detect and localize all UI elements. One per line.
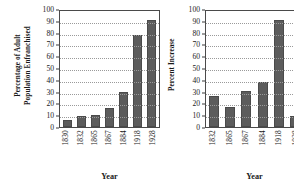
x-tick-label: 1865	[91, 130, 99, 146]
chart-enfranchisement: Percentage of Adult Population Enfranchi…	[0, 0, 150, 195]
plot-area-right	[205, 10, 294, 128]
y-tick-label: 30	[192, 89, 200, 97]
gridline	[60, 117, 159, 118]
x-tick-label: 1832	[209, 130, 217, 146]
x-axis-title-right: Year	[205, 172, 294, 181]
gridline	[60, 35, 159, 36]
x-axis-labels-right: 183218651867188419181928	[205, 130, 294, 164]
y-tick-label: 10	[46, 112, 54, 120]
bar	[209, 96, 219, 127]
y-tick-label: 0	[196, 124, 200, 132]
gridline	[60, 94, 159, 95]
bar-series-right	[206, 11, 294, 127]
y-tick-label: 0	[50, 124, 54, 132]
y-tick-label: 50	[192, 65, 200, 73]
x-tick-label: 1928	[292, 130, 294, 146]
gridline	[206, 117, 294, 118]
x-tick-label: 1918	[275, 130, 283, 146]
y-axis-title-left-line2: Population Enfranchised	[23, 26, 33, 105]
plot-area-left	[59, 10, 160, 128]
y-tick-label: 10	[192, 112, 200, 120]
x-tick-label: 1884	[120, 130, 128, 146]
y-tick-label: 60	[192, 53, 200, 61]
x-tick-label: 1918	[134, 130, 142, 146]
y-tick-label: 70	[46, 41, 54, 49]
y-axis-title-left-line1: Percentage of Adult	[14, 34, 22, 96]
bar	[274, 20, 284, 127]
gridline	[206, 94, 294, 95]
x-axis-title-left: Year	[59, 172, 160, 181]
y-tick-label: 30	[46, 89, 54, 97]
gridline	[206, 35, 294, 36]
y-tick-label: 40	[46, 77, 54, 85]
x-tick-label: 1884	[259, 130, 267, 146]
x-tick-label: 1865	[226, 130, 234, 146]
bar	[258, 82, 268, 127]
y-tick-label: 100	[43, 6, 54, 14]
y-axis-title-right: Percent Increase	[162, 0, 182, 130]
bar	[241, 91, 251, 127]
bar-series-left	[60, 11, 159, 127]
gridline	[206, 23, 294, 24]
gridline	[206, 105, 294, 106]
gridline	[60, 46, 159, 47]
y-tick-label: 50	[46, 65, 54, 73]
gridline	[206, 70, 294, 71]
y-axis-title-right-line1: Percent Increase	[167, 39, 175, 92]
gridline	[60, 23, 159, 24]
y-tick-label: 80	[192, 30, 200, 38]
y-tick-label: 20	[46, 100, 54, 108]
bar	[63, 120, 72, 127]
y-tick-label: 90	[192, 18, 200, 26]
gridline	[206, 58, 294, 59]
x-axis-labels-left: 1830183218651867188419181928	[59, 130, 160, 164]
gridline	[60, 58, 159, 59]
x-tick-label: 1830	[62, 130, 70, 146]
y-tick-label: 80	[46, 30, 54, 38]
x-tick-label: 1867	[242, 130, 250, 146]
bar	[119, 92, 128, 127]
y-tick-label: 20	[192, 100, 200, 108]
gridline	[60, 82, 159, 83]
y-tick-label: 60	[46, 53, 54, 61]
x-tick-label: 1832	[77, 130, 85, 146]
gridline	[206, 46, 294, 47]
y-tick-label: 70	[192, 41, 200, 49]
y-tick-label: 90	[46, 18, 54, 26]
y-axis-ticks-right: 0102030405060708090100	[184, 10, 202, 128]
y-tick-label: 40	[192, 77, 200, 85]
figure-two-bar-charts: Percentage of Adult Population Enfranchi…	[0, 0, 294, 195]
y-axis-ticks-left: 0102030405060708090100	[38, 10, 56, 128]
y-axis-title-left: Percentage of Adult Population Enfranchi…	[10, 0, 36, 130]
chart-percent-increase: Percent Increase 0102030405060708090100 …	[150, 0, 294, 195]
gridline	[60, 70, 159, 71]
y-tick-label: 100	[189, 6, 200, 14]
gridline	[206, 82, 294, 83]
gridline	[60, 105, 159, 106]
x-tick-label: 1867	[105, 130, 113, 146]
